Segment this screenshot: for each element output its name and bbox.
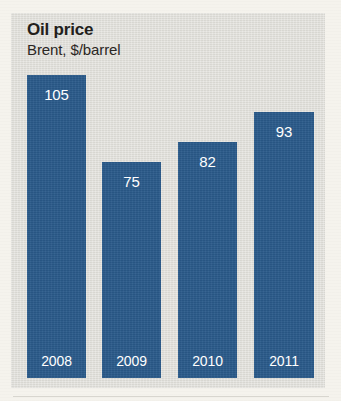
bar-category-2011: 2011 bbox=[254, 353, 314, 369]
bar-2011: 93 2011 bbox=[254, 112, 314, 378]
page-divider bbox=[13, 396, 329, 397]
bar-value-2010: 82 bbox=[178, 153, 237, 170]
chart-panel: Oil price Brent, $/barrel 105 2008 75 20… bbox=[11, 13, 325, 388]
bar-2008: 105 2008 bbox=[27, 75, 86, 378]
bar-category-2009: 2009 bbox=[102, 353, 161, 369]
bar-value-2011: 93 bbox=[254, 123, 314, 140]
bar-category-2010: 2010 bbox=[178, 353, 237, 369]
bar-2010: 82 2010 bbox=[178, 142, 237, 378]
bar-2009: 75 2009 bbox=[102, 162, 161, 378]
bar-value-2009: 75 bbox=[102, 173, 161, 190]
page-background: Oil price Brent, $/barrel 105 2008 75 20… bbox=[0, 0, 341, 401]
plot-area: 105 2008 75 2009 82 2010 93 2011 bbox=[11, 13, 325, 388]
bar-category-2008: 2008 bbox=[27, 353, 86, 369]
bar-value-2008: 105 bbox=[27, 86, 86, 103]
